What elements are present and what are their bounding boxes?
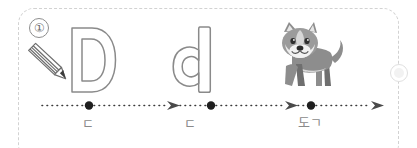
station-label-2: ㄷ: [170, 116, 210, 131]
page-notch-inner-icon: [394, 68, 404, 78]
worksheet-root: ①: [0, 0, 417, 148]
dog-illustration: [272, 18, 348, 98]
station-dot-3: [307, 101, 315, 109]
station-dot-1: [85, 101, 93, 109]
station-dot-2: [207, 101, 215, 109]
station-label-3: 도ㄱ: [286, 115, 334, 130]
station-label-1: ㄷ: [68, 116, 108, 131]
letter-uppercase-d-outline: [62, 24, 120, 102]
letter-lowercase-d-outline: [170, 24, 216, 102]
item-number-badge: ①: [29, 18, 49, 38]
